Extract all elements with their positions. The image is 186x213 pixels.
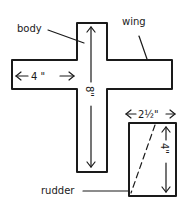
glider-pattern-diagram: body wing 4 " 8" 2½" 4" rudder xyxy=(0,0,186,213)
body-wing-outline xyxy=(12,23,172,172)
body-label: body xyxy=(17,23,42,34)
body-dimension-arrow xyxy=(87,27,95,167)
rudder-height-arrow xyxy=(162,127,170,192)
body-dimension-label: 8" xyxy=(84,86,95,97)
rudder-label: rudder xyxy=(41,185,75,196)
wing-label: wing xyxy=(122,16,146,27)
body-leader-line xyxy=(48,30,84,43)
wing-dimension-label: 4 " xyxy=(31,71,45,82)
rudder-height-label: 4" xyxy=(159,143,170,154)
rudder-outline xyxy=(129,123,176,196)
rudder-width-label: 2½" xyxy=(138,109,159,120)
rudder-cut-line xyxy=(131,125,155,193)
wing-leader-line xyxy=(139,36,147,59)
